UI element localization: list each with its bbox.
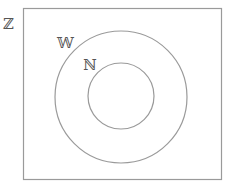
label-z: ℤ bbox=[3, 15, 14, 33]
set-w-circle bbox=[55, 31, 187, 163]
label-n: ℕ bbox=[83, 56, 97, 74]
label-w: 𝕎 bbox=[56, 34, 75, 52]
venn-diagram: ℤ 𝕎 ℕ bbox=[0, 0, 226, 186]
set-z-rectangle bbox=[24, 9, 222, 180]
set-n-circle bbox=[88, 63, 154, 129]
